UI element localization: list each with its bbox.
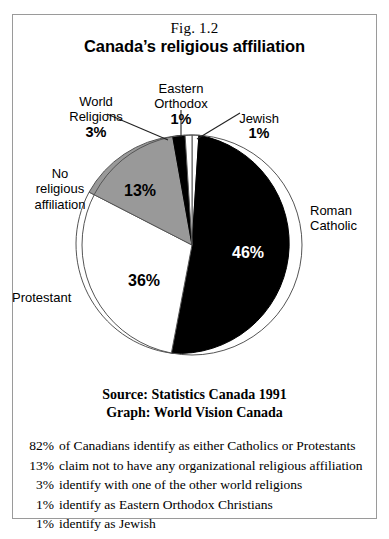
footnote-text: identify with one of the other world rel… [59, 475, 367, 495]
figure-number: Fig. 1.2 [0, 20, 389, 37]
footnote-percent: 13% [22, 456, 54, 476]
source-block: Source: Statistics Canada 1991 Graph: Wo… [0, 386, 389, 422]
graph-line: Graph: World Vision Canada [0, 404, 389, 422]
callout-roman-catholic: Roman Catholic [310, 187, 382, 234]
footnote-list: 82%of Canadians identify as either Catho… [22, 436, 367, 534]
slice-value-protestant: 36% [128, 272, 160, 290]
callout-jewish: Jewish 1% [228, 95, 290, 157]
slice-value-roman-catholic: 46% [232, 244, 264, 262]
footnote-percent: 1% [22, 495, 54, 515]
footnote-row: 1%identify as Eastern Orthodox Christian… [22, 495, 367, 515]
footnote-row: 1%identify as Jewish [22, 514, 367, 534]
footnote-text: claim not to have any organizational rel… [59, 456, 367, 476]
callout-jewish-pct: 1% [228, 126, 290, 142]
callout-eastern-orthodox: Eastern Orthodox 1% [138, 65, 224, 143]
callout-no-religious-affiliation-name: No religious affiliation [34, 166, 85, 212]
footnote-text: of Canadians identify as either Catholic… [59, 436, 367, 456]
footnote-text: identify as Eastern Orthodox Christians [59, 495, 367, 515]
footnote-row: 82%of Canadians identify as either Catho… [22, 436, 367, 456]
callout-protestant: Protestant [12, 274, 90, 305]
footnote-row: 3%identify with one of the other world r… [22, 475, 367, 495]
callout-world-religions-pct: 3% [60, 125, 132, 141]
footnote-text: identify as Jewish [59, 514, 367, 534]
callout-no-religious-affiliation: No religious affiliation [18, 150, 102, 212]
callout-eastern-orthodox-pct: 1% [138, 112, 224, 128]
callout-world-religions-name: World Religions [69, 94, 122, 125]
callout-protestant-name: Protestant [12, 290, 71, 305]
footnote-percent: 3% [22, 475, 54, 495]
footnote-row: 13%claim not to have any organizational … [22, 456, 367, 476]
slice-value-no-religious-affiliation: 13% [124, 182, 156, 200]
callout-jewish-name: Jewish [239, 111, 279, 126]
chart-title: Canada’s religious affiliation [0, 37, 389, 56]
callout-eastern-orthodox-name: Eastern Orthodox [154, 81, 207, 112]
callout-roman-catholic-name: Roman Catholic [310, 203, 357, 234]
source-line: Source: Statistics Canada 1991 [0, 386, 389, 404]
callout-world-religions: World Religions 3% [60, 78, 132, 156]
footnote-percent: 82% [22, 436, 54, 456]
footnote-percent: 1% [22, 514, 54, 534]
